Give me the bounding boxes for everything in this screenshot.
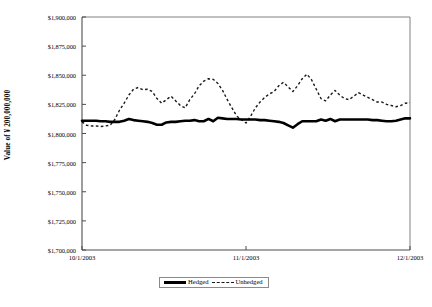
legend-dashed-line-icon [212,282,234,283]
legend-solid-line-icon [164,281,186,284]
plot-frame [82,17,410,250]
legend-entry-unhedged: Unhedged [212,279,263,286]
x-axis-ticks [82,246,410,250]
y-axis-ticks [82,17,86,250]
chart-container: Value of ¥ 200,000,000 $1,900,000$1,875,… [0,0,432,307]
legend-entry-hedged: Hedged [164,279,209,286]
plot-area [0,0,432,307]
legend-label-hedged: Hedged [188,279,209,286]
legend-label-unhedged: Unhedged [236,279,263,286]
chart-legend: Hedged Unhedged [159,277,269,288]
